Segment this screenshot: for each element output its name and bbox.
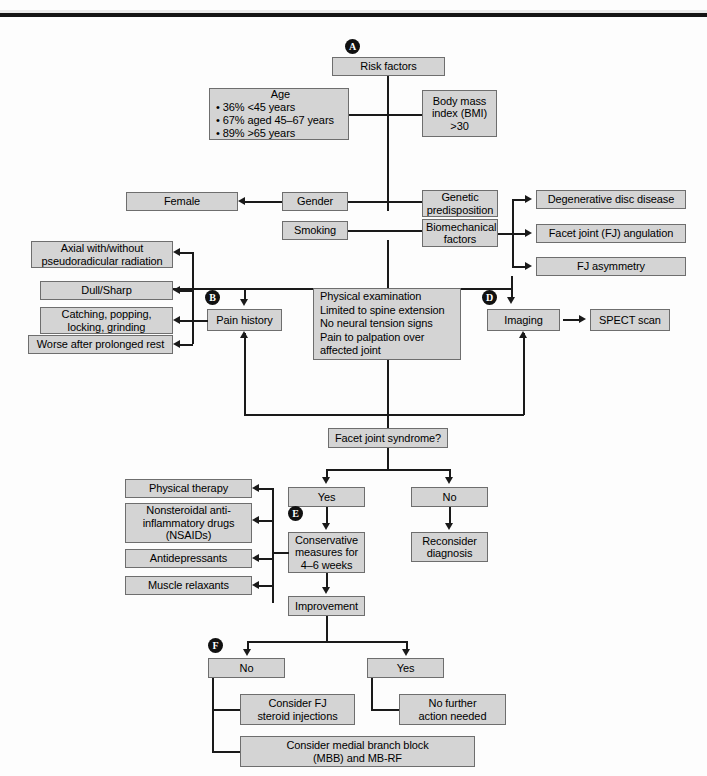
node-facet-joint-syndrome-question[interactable]: Facet joint syndrome? bbox=[328, 428, 448, 448]
node-physexam-line-1: Physical examination bbox=[320, 290, 421, 302]
connector-biomech-right bbox=[387, 230, 422, 232]
node-age-content: Age • 36% <45 years • 67% aged 45–67 yea… bbox=[216, 88, 345, 140]
node-risk-factors[interactable]: Risk factors bbox=[332, 57, 445, 76]
node-no-1[interactable]: No bbox=[411, 487, 488, 507]
node-gender-label: Gender bbox=[286, 195, 344, 208]
node-catching-popping[interactable]: Catching, popping, locking, grinding bbox=[40, 307, 173, 334]
node-mbb-content: Consider medial branch block (MBB) and M… bbox=[244, 739, 471, 764]
arrowhead-ddd bbox=[525, 195, 532, 203]
connector-yes2-to-nofurther bbox=[371, 709, 399, 711]
arrowhead-catching bbox=[173, 316, 180, 324]
connector-conservative-out bbox=[272, 552, 289, 554]
node-dull-sharp[interactable]: Dull/Sharp bbox=[40, 281, 173, 300]
node-physexam-line-2: Limited to spine extension bbox=[320, 304, 445, 316]
node-conservative-line-1: Conservative bbox=[295, 534, 358, 546]
node-imaging[interactable]: Imaging bbox=[487, 309, 560, 331]
node-age[interactable]: Age • 36% <45 years • 67% aged 45–67 yea… bbox=[209, 88, 349, 140]
node-smoking[interactable]: Smoking bbox=[282, 221, 348, 240]
node-no-2-label: No bbox=[212, 662, 281, 675]
node-nsaids-line-2: inflammatory drugs bbox=[143, 517, 235, 529]
node-fj-angulation-label: Facet joint (FJ) angulation bbox=[540, 227, 682, 240]
connector-improvement-down bbox=[326, 616, 328, 642]
node-physical-examination[interactable]: Physical examination Limited to spine ex… bbox=[313, 288, 461, 360]
node-no-further-action[interactable]: No further action needed bbox=[399, 694, 506, 725]
node-reconsider-diagnosis[interactable]: Reconsider diagnosis bbox=[411, 532, 488, 562]
node-consider-mbb[interactable]: Consider medial branch block (MBB) and M… bbox=[240, 736, 475, 767]
node-biomechanical-factors[interactable]: Biomechanical factors bbox=[422, 219, 498, 247]
arrowhead-yes-2 bbox=[402, 649, 410, 656]
node-catching-line-1: Catching, popping, bbox=[62, 308, 152, 320]
node-axial-radiation[interactable]: Axial with/without pseudoradicular radia… bbox=[31, 241, 173, 268]
arrowhead-no-1 bbox=[445, 477, 453, 484]
connector-painhistory-rail bbox=[192, 252, 194, 344]
node-nsaids-line-1: Nonsteroidal anti- bbox=[146, 504, 230, 516]
node-risk-factors-label: Risk factors bbox=[336, 60, 441, 73]
node-pain-history[interactable]: Pain history bbox=[207, 309, 282, 331]
connector-to-nsaids bbox=[259, 520, 273, 522]
node-nsaids-line-3: (NSAIDs) bbox=[166, 529, 212, 541]
node-fj-steroid-content: Consider FJ steroid injections bbox=[244, 697, 351, 722]
arrowhead-fj-asymmetry bbox=[525, 262, 532, 270]
node-genetic-content: Genetic predisposition bbox=[426, 191, 494, 216]
node-physexam-line-3: No neural tension signs bbox=[320, 317, 433, 329]
node-yes-1[interactable]: Yes bbox=[288, 487, 365, 507]
node-genetic-line-1: Genetic bbox=[441, 191, 478, 203]
node-antidepressants[interactable]: Antidepressants bbox=[125, 549, 252, 568]
node-fj-angulation[interactable]: Facet joint (FJ) angulation bbox=[536, 224, 686, 243]
node-mbb-line-2: (MBB) and MB-RF bbox=[313, 752, 402, 764]
node-age-bullet-2: • 67% aged 45–67 years bbox=[216, 114, 334, 126]
connector-trunk-to-bus bbox=[387, 240, 389, 289]
arrowhead-spect bbox=[579, 315, 586, 323]
node-reconsider-line-1: Reconsider bbox=[422, 535, 477, 547]
node-pain-history-label: Pain history bbox=[211, 314, 278, 327]
arrowhead-reconsider bbox=[445, 523, 453, 530]
node-biomech-line-1: Biomechanical bbox=[426, 221, 496, 233]
connector-no2-rail bbox=[212, 678, 214, 753]
node-nsaids-content: Nonsteroidal anti- inflammatory drugs (N… bbox=[129, 504, 248, 542]
node-female[interactable]: Female bbox=[126, 192, 238, 211]
node-biomech-line-2: factors bbox=[444, 233, 476, 245]
node-conservative-line-2: measures for bbox=[295, 546, 358, 558]
node-fjs-question-label: Facet joint syndrome? bbox=[332, 432, 444, 445]
node-reconsider-content: Reconsider diagnosis bbox=[415, 535, 484, 560]
node-spect-label: SPECT scan bbox=[594, 314, 666, 327]
header-rule bbox=[0, 13, 707, 17]
node-worse-after-rest[interactable]: Worse after prolonged rest bbox=[28, 335, 173, 354]
node-fj-steroid-line-1: Consider FJ bbox=[268, 697, 326, 709]
node-conservative-line-3: 4–6 weeks bbox=[301, 559, 353, 571]
node-physexam-line-5: affected joint bbox=[320, 344, 381, 356]
node-physical-therapy[interactable]: Physical therapy bbox=[125, 479, 252, 498]
node-genetic-predisposition[interactable]: Genetic predisposition bbox=[422, 190, 498, 217]
node-no-2[interactable]: No bbox=[208, 658, 285, 678]
connector-to-fj-angulation bbox=[512, 233, 526, 235]
node-bmi[interactable]: Body mass index (BMI) >30 bbox=[422, 90, 497, 137]
node-spect-scan[interactable]: SPECT scan bbox=[590, 309, 670, 331]
node-degenerative-disc-disease[interactable]: Degenerative disc disease bbox=[536, 190, 686, 209]
connector-to-worse-rest bbox=[180, 344, 193, 346]
node-nsaids[interactable]: Nonsteroidal anti- inflammatory drugs (N… bbox=[125, 503, 252, 543]
node-conservative-content: Conservative measures for 4–6 weeks bbox=[292, 534, 361, 572]
arrowhead-conservative bbox=[322, 523, 330, 530]
node-conservative-measures[interactable]: Conservative measures for 4–6 weeks bbox=[288, 532, 365, 573]
node-yes-2[interactable]: Yes bbox=[367, 658, 444, 678]
node-consider-fj-steroid[interactable]: Consider FJ steroid injections bbox=[240, 694, 355, 725]
node-axial-line-1: Axial with/without bbox=[61, 242, 144, 254]
connector-gender-to-female bbox=[245, 201, 282, 203]
node-improvement[interactable]: Improvement bbox=[288, 596, 365, 616]
node-no-further-content: No further action needed bbox=[403, 697, 502, 722]
arrowhead-improvement bbox=[322, 587, 330, 594]
flowchart-figure: A Risk factors Age • 36% <45 years • 67%… bbox=[0, 0, 707, 776]
connector-bmi-branch bbox=[387, 114, 422, 116]
node-fj-asymmetry[interactable]: FJ asymmetry bbox=[536, 257, 686, 276]
node-fj-steroid-line-2: steroid injections bbox=[257, 710, 337, 722]
node-muscle-relaxants[interactable]: Muscle relaxants bbox=[125, 576, 252, 595]
node-antidepressants-label: Antidepressants bbox=[129, 552, 248, 565]
arrowhead-dullsharp bbox=[173, 286, 180, 294]
node-fj-asymmetry-label: FJ asymmetry bbox=[540, 260, 682, 273]
marker-d: D bbox=[482, 290, 497, 305]
node-gender[interactable]: Gender bbox=[282, 192, 348, 211]
connector-age-branch bbox=[348, 114, 388, 116]
node-bmi-content: Body mass index (BMI) >30 bbox=[426, 95, 493, 133]
connector-to-physical-therapy bbox=[259, 488, 273, 490]
node-bmi-line-1: Body mass bbox=[433, 95, 487, 107]
